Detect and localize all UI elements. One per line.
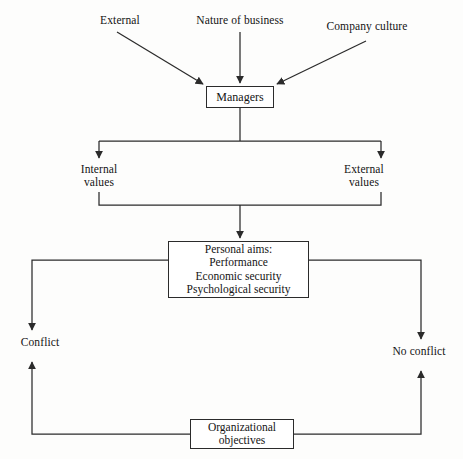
edge-personal-aims-to-conflict — [32, 260, 168, 330]
edge-objectives-to-no-conflict — [294, 371, 421, 434]
node-organizational-objectives-box: Organizational objectives — [190, 419, 294, 449]
node-company-culture-label: Company culture — [312, 20, 422, 33]
diagram-canvas: External Nature of business Company cult… — [0, 0, 463, 459]
diagram-connectors — [0, 0, 463, 459]
node-conflict-label: Conflict — [4, 336, 76, 349]
edge-company-culture-to-managers — [277, 41, 366, 84]
node-managers-box: Managers — [206, 86, 274, 108]
node-internal-values-label: Internal values — [62, 163, 136, 189]
node-nature-of-business-label: Nature of business — [176, 14, 304, 27]
node-external-label: External — [78, 14, 162, 27]
node-external-values-label: External values — [326, 163, 402, 189]
node-no-conflict-label: No conflict — [378, 345, 460, 358]
edge-external-to-managers — [117, 32, 203, 84]
edge-personal-aims-to-no-conflict — [309, 260, 421, 339]
edge-objectives-to-conflict — [32, 362, 190, 434]
node-personal-aims-box: Personal aims: Performance Economic secu… — [168, 241, 309, 298]
edge-internal-values-to-merge — [99, 192, 240, 205]
edge-external-values-to-merge — [240, 192, 381, 205]
